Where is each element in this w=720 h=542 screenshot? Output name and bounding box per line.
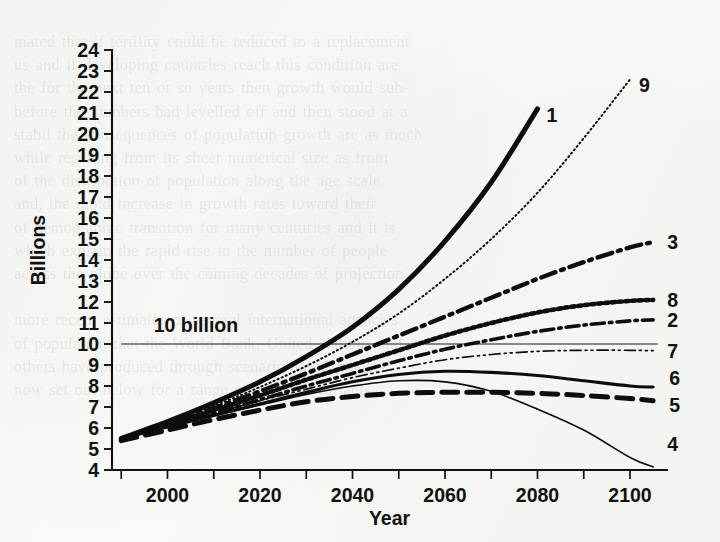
series-label-6: 6 bbox=[669, 367, 680, 389]
y-axis-title: Billions bbox=[27, 215, 49, 286]
y-axis-tick-label: 20 bbox=[77, 123, 99, 145]
series-label-4: 4 bbox=[667, 433, 678, 455]
series-label-2: 2 bbox=[667, 309, 678, 331]
y-axis-tick-label: 22 bbox=[77, 81, 99, 103]
y-axis-tick-label: 14 bbox=[77, 249, 99, 271]
x-axis-tick-label: 2040 bbox=[331, 484, 375, 506]
tick-and-series-labels-group: 4567891011121314151617181920212223242000… bbox=[27, 39, 680, 529]
x-axis-tick-label: 2060 bbox=[423, 484, 467, 506]
y-axis-tick-label: 10 bbox=[77, 333, 99, 355]
series-label-9: 9 bbox=[639, 74, 650, 96]
y-axis-tick-label: 21 bbox=[77, 102, 99, 124]
y-axis-tick-label: 17 bbox=[77, 186, 99, 208]
y-axis-tick-label: 15 bbox=[77, 228, 99, 250]
y-axis-tick-label: 8 bbox=[88, 375, 99, 397]
series-label-8: 8 bbox=[667, 289, 678, 311]
ten-billion-reference-label: 10 billion bbox=[154, 314, 239, 336]
x-axis-tick-label: 2080 bbox=[516, 484, 560, 506]
y-axis-tick-label: 11 bbox=[78, 312, 99, 334]
y-axis-tick-label: 18 bbox=[77, 165, 99, 187]
x-axis-tick-label: 2000 bbox=[146, 484, 190, 506]
population-projection-chart: 10 billion 45678910111213141516171819202… bbox=[0, 0, 720, 542]
y-axis-tick-label: 13 bbox=[77, 270, 99, 292]
y-axis-tick-label: 7 bbox=[88, 396, 99, 418]
x-axis-tick-label: 2100 bbox=[608, 484, 652, 506]
y-axis-tick-label: 23 bbox=[77, 60, 99, 82]
x-axis-title: Year bbox=[369, 507, 411, 529]
y-axis-tick-label: 19 bbox=[77, 144, 99, 166]
figure-page: mated that if tertility could be reduced… bbox=[0, 0, 720, 542]
series-label-1: 1 bbox=[547, 104, 558, 126]
series-label-7: 7 bbox=[667, 340, 678, 362]
y-axis-tick-label: 9 bbox=[88, 354, 99, 376]
y-axis-tick-label: 12 bbox=[77, 291, 99, 313]
y-axis-tick-label: 4 bbox=[88, 459, 99, 481]
x-axis-tick-label: 2020 bbox=[238, 484, 282, 506]
y-axis-tick-label: 16 bbox=[77, 207, 99, 229]
y-axis-tick-label: 24 bbox=[77, 39, 99, 61]
series-curves-group bbox=[121, 79, 653, 466]
series-label-3: 3 bbox=[667, 231, 678, 253]
y-axis-tick-label: 6 bbox=[88, 417, 99, 439]
y-axis-tick-label: 5 bbox=[88, 438, 99, 460]
series-label-5: 5 bbox=[669, 394, 680, 416]
series-curve-9 bbox=[121, 79, 630, 438]
